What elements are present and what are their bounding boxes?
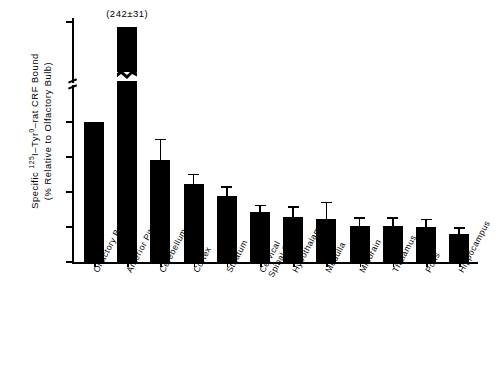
y-axis-break-icon <box>68 83 77 85</box>
y-axis-line <box>72 18 74 262</box>
bar-axis-break-icon <box>116 72 138 81</box>
error-bar-cap-4 <box>221 186 232 188</box>
y-tick-50 <box>66 191 72 193</box>
y-axis-title-prefix: Specific <box>30 169 40 209</box>
y-tick-0 <box>66 261 72 263</box>
error-bar-cap-10 <box>421 219 432 221</box>
bar-olfactory-bulb <box>84 122 104 262</box>
error-bar-cap-2 <box>155 139 166 141</box>
bar-annotation-anterior-pituitary: (242±31) <box>106 8 148 19</box>
error-bar-cap-5 <box>255 205 266 207</box>
error-bar-cap-8 <box>354 217 365 219</box>
error-bar-cap-3 <box>188 174 199 176</box>
y-axis-title-wrapper: Specific 125I–Tyr0–rat CRF Bound(% Relat… <box>12 0 46 280</box>
y-tick-250 <box>66 21 72 23</box>
y-tick-25 <box>66 226 72 228</box>
plot-area: 0255075100250 (242±31) Olfactory BulbAnt… <box>72 18 478 262</box>
y-axis-title-superscript-0: 0 <box>28 128 35 132</box>
error-bar-cap-11 <box>454 227 465 229</box>
y-axis-title-line2: (% Relative to Olfactory Bulb) <box>43 62 53 200</box>
y-tick-75 <box>66 156 72 158</box>
y-tick-100 <box>66 121 72 123</box>
error-bar-cap-6 <box>288 206 299 208</box>
y-axis-title-suffix: –rat CRF Bound <box>30 53 40 128</box>
y-axis-title-superscript-125: 125 <box>28 156 35 169</box>
y-axis-title-mid: I–Tyr <box>30 132 40 155</box>
error-bar-cap-7 <box>321 202 332 204</box>
figure-bar-chart: Specific 125I–Tyr0–rat CRF Bound(% Relat… <box>0 0 501 366</box>
error-bar-stem-2 <box>160 139 162 160</box>
error-bar-cap-9 <box>387 217 398 219</box>
y-axis-title: Specific 125I–Tyr0–rat CRF Bound(% Relat… <box>12 0 55 262</box>
error-bar-stem-7 <box>326 202 328 219</box>
